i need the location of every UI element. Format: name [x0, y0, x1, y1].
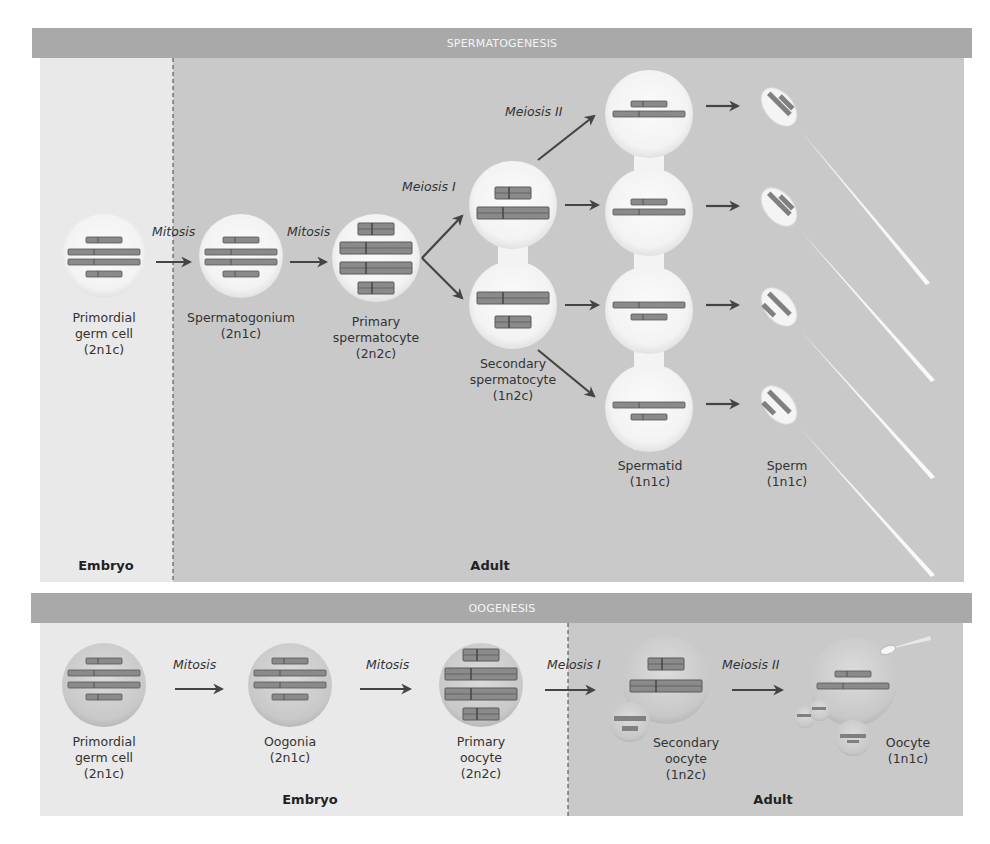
cell-label: Secondary	[653, 735, 720, 750]
zone-label-adult: Adult	[753, 792, 792, 807]
step-label-meiosis-2: Meiosis II	[505, 104, 563, 119]
step-label-mitosis: Mitosis	[173, 657, 217, 672]
zone-label-embryo: Embryo	[282, 792, 338, 807]
step-label-mitosis: Mitosis	[366, 657, 410, 672]
ploidy-label: (1n1c)	[888, 751, 928, 766]
cell-label: Oocyte	[886, 735, 931, 750]
cell-primary-oocyte	[439, 643, 523, 727]
cell-oogonia	[248, 643, 332, 727]
cell-label: germ cell	[75, 326, 133, 341]
cell-label: Spermatogonium	[187, 310, 295, 325]
cell-label: Primary	[457, 734, 506, 749]
cell-primordial-germ-cell	[62, 214, 146, 298]
ploidy-label: (1n2c)	[666, 767, 706, 782]
polar-body	[610, 702, 650, 742]
cell-label: Oogonia	[264, 734, 316, 749]
ploidy-label: (2n2c)	[356, 346, 396, 361]
ploidy-label: (2n1c)	[84, 342, 124, 357]
ploidy-label: (2n2c)	[461, 766, 501, 781]
ploidy-label: (2n1c)	[221, 326, 261, 341]
cell-label: oocyte	[665, 751, 707, 766]
ploidy-label: (2n1c)	[270, 750, 310, 765]
ploidy-label: (1n1c)	[767, 474, 807, 489]
step-label-mitosis: Mitosis	[152, 224, 196, 239]
ploidy-label: (1n1c)	[630, 474, 670, 489]
cell-primary-spermatocyte	[332, 214, 420, 302]
oogenesis-panel: OOGENESIS Embryo Adult Primordial germ c…	[31, 593, 972, 816]
cell-label: Secondary	[480, 356, 547, 371]
cell-label: oocyte	[460, 750, 502, 765]
step-label-meiosis-1: Meiosis I	[547, 657, 601, 672]
spermatogenesis-title: SPERMATOGENESIS	[447, 37, 558, 50]
oogenesis-title: OOGENESIS	[469, 602, 536, 615]
step-label-meiosis-2: Meiosis II	[722, 657, 780, 672]
zone-label-adult: Adult	[470, 558, 509, 573]
ploidy-label: (2n1c)	[84, 766, 124, 781]
cell-label: Sperm	[767, 458, 808, 473]
cell-label: Primordial	[72, 310, 135, 325]
cell-primordial-germ-cell	[62, 643, 146, 727]
cell-label: Primordial	[72, 734, 135, 749]
step-label-mitosis: Mitosis	[287, 224, 331, 239]
gametogenesis-diagram: SPERMATOGENESIS Embryo Adult Primordial …	[0, 0, 990, 844]
step-label-meiosis-1: Meiosis I	[402, 179, 456, 194]
cell-label: spermatocyte	[470, 372, 557, 387]
ploidy-label: (1n2c)	[493, 388, 533, 403]
cell-label: spermatocyte	[333, 330, 420, 345]
cell-label: germ cell	[75, 750, 133, 765]
zone-label-embryo: Embryo	[78, 558, 134, 573]
cell-label: Primary	[352, 314, 401, 329]
spermatogenesis-panel: SPERMATOGENESIS Embryo Adult Primordial …	[32, 28, 972, 582]
cell-label: Spermatid	[618, 458, 683, 473]
cell-spermatogonium	[199, 214, 283, 298]
